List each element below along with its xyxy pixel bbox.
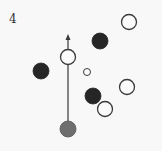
- circle-hollow-small-center-icon: [84, 69, 91, 76]
- arrow-path: [66, 34, 71, 129]
- circle-dark-center-icon: [85, 88, 101, 104]
- circle-dark-left-icon: [33, 63, 49, 79]
- diagram-canvas: [0, 0, 162, 151]
- circles-group: [33, 15, 137, 138]
- circle-hollow-on-path-icon: [61, 50, 76, 65]
- circle-gray-start-icon: [60, 121, 76, 137]
- circle-hollow-right-icon: [120, 80, 135, 95]
- diagram-board: 4: [0, 0, 162, 151]
- circle-hollow-top-right-icon: [122, 15, 137, 30]
- arrow-head-icon: [66, 34, 71, 40]
- circle-hollow-bottom-icon: [98, 102, 113, 117]
- circle-dark-top-icon: [92, 33, 108, 49]
